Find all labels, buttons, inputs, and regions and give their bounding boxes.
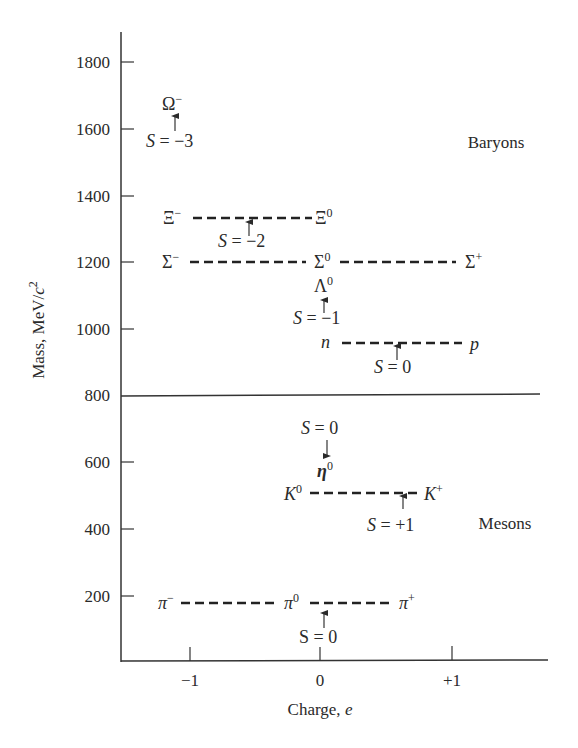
kaon-plus-label: K+ [423,482,443,504]
eta-zero-label: η0 [317,459,333,481]
strangeness-arrows [175,116,403,628]
strangeness-pion: S = 0 [299,627,337,647]
y-axis-tick-labels: 1800 1600 1400 1200 1000 800 600 400 200 [76,53,110,606]
pion-zero-label: π0 [284,591,299,613]
x-tick-0: 0 [316,671,325,690]
particle-labels: Ω− Ξ− Ξ0 Σ− Σ0 Σ+ Λ0 n p η0 K0 K+ π− π0 … [158,92,482,613]
x-axis-ticks [190,646,452,661]
x-axis-line [121,660,548,661]
pion-plus-label: π+ [399,591,415,613]
y-tick-1200: 1200 [76,253,110,272]
strangeness-eta: S = 0 [301,418,338,438]
lambda-zero-label: Λ0 [314,274,333,296]
kaon-zero-label: K0 [283,482,302,504]
y-tick-200: 200 [85,587,111,606]
omega-minus-label: Ω− [162,92,182,114]
x-axis-title: Charge, e [288,700,353,719]
strangeness-sigma-lambda: S = −1 [293,308,340,328]
neutron-label: n [321,332,330,352]
axes [121,32,548,662]
y-tick-400: 400 [85,520,111,539]
x-axis-tick-labels: −1 0 +1 [181,671,461,690]
sigma-minus-label: Σ− [162,250,179,272]
y-tick-600: 600 [85,453,111,472]
xi-zero-label: Ξ0 [315,206,333,228]
strangeness-labels: S = −3 S = −2 S = −1 S = 0 S = 0 S = +1 … [146,131,414,647]
y-axis-ticks [121,62,134,596]
y-tick-800: 800 [85,386,111,405]
mesons-label: Mesons [479,514,532,533]
y-tick-1600: 1600 [76,120,110,139]
y-axis-title: Mass, MeV/c2 [26,281,48,379]
strangeness-xi: S = −2 [218,231,265,251]
particle-mass-charge-diagram: 1800 1600 1400 1200 1000 800 600 400 200… [0,0,578,748]
strangeness-nucleon: S = 0 [374,357,411,377]
sigma-plus-label: Σ+ [465,250,482,272]
baryons-label: Baryons [468,133,525,152]
x-tick-plus-1: +1 [443,671,461,690]
x-tick-minus-1: −1 [181,671,199,690]
sigma-zero-label: Σ0 [314,250,330,272]
y-tick-1000: 1000 [76,320,110,339]
strangeness-omega: S = −3 [146,131,193,151]
pion-minus-label: π− [158,591,174,613]
xi-minus-label: Ξ− [163,206,182,228]
strangeness-kaon: S = +1 [367,515,414,535]
baryon-meson-divider [121,394,540,396]
y-tick-1400: 1400 [76,187,110,206]
proton-label: p [468,334,479,354]
y-tick-1800: 1800 [76,53,110,72]
